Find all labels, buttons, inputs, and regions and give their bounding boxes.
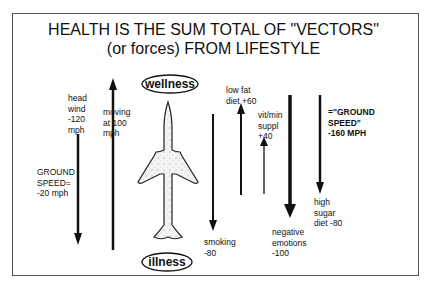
ground-speed-left-label: GROUND SPEED= -20 mph	[37, 167, 75, 199]
high-sugar-label: high sugar diet -80	[314, 197, 342, 229]
high-sugar-arrow	[316, 95, 324, 194]
moving-label: moving at 100 mph	[103, 107, 130, 139]
ground-speed-right-label: ="GROUND SPEED" -160 MPH	[328, 107, 375, 139]
head-wind-arrow	[74, 134, 82, 245]
airplane-icon	[138, 102, 198, 239]
low-fat-diet-label: low fat diet +60	[226, 85, 257, 106]
low-fat-diet-arrow	[237, 103, 245, 195]
wellness-label: wellness	[142, 77, 198, 91]
vit-min-arrow	[260, 137, 268, 194]
negative-emotions-label: negative emotions -100	[272, 227, 307, 259]
smoking-label: smoking -80	[204, 237, 236, 258]
illness-label: illness	[142, 255, 192, 269]
vit-min-label: vit/min suppl +40	[258, 110, 283, 142]
negative-emotions-arrow	[284, 95, 296, 218]
smoking-arrow	[209, 114, 217, 231]
moving-arrow	[109, 78, 117, 250]
head-wind-label: head wind -120 mph	[68, 93, 87, 135]
